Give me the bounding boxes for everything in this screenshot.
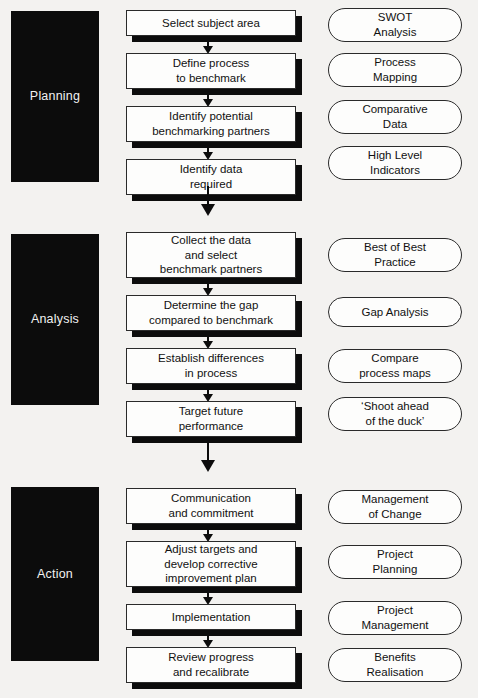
process-text-line: develop corrective — [164, 557, 257, 572]
box-face: Review progress and recalibrate — [126, 647, 296, 683]
process-text-line: Collect the data — [160, 233, 262, 248]
process-text-line: Implementation — [172, 610, 251, 625]
tool-text-line: Planning — [373, 562, 418, 577]
tool-pill-analysis-2[interactable]: Gap Analysis — [328, 297, 462, 327]
process-text: Determine the gap compared to benchmark — [143, 298, 279, 327]
tool-text: ‘Shoot ahead of the duck’ — [353, 399, 437, 428]
process-text-line: and select — [160, 248, 262, 263]
tool-text: SWOT Analysis — [366, 10, 425, 39]
process-box-analysis-1[interactable]: Collect the data and select benchmark pa… — [126, 232, 296, 278]
process-text-line: Establish differences — [158, 351, 264, 366]
phase-panel-planning: Planning — [12, 12, 98, 181]
phase-panel-action: Action — [12, 488, 98, 660]
tool-text: Comparative Data — [354, 102, 435, 131]
process-box-planning-3[interactable]: Identify potential benchmarking partners — [126, 106, 296, 142]
tool-text-line: Comparative — [362, 102, 427, 117]
arrowhead-icon — [201, 204, 215, 216]
tool-text-line: Compare — [359, 351, 431, 366]
process-text-line: Identify data — [180, 162, 243, 177]
process-box-action-3[interactable]: Implementation — [126, 604, 296, 630]
tool-text-line: of Change — [361, 507, 428, 522]
tool-text-line: Realisation — [367, 665, 424, 680]
tool-pill-action-1[interactable]: Management of Change — [328, 490, 462, 524]
process-text: Target future performance — [173, 404, 250, 433]
tool-pill-analysis-1[interactable]: Best of Best Practice — [328, 238, 462, 272]
process-text-line: compared to benchmark — [149, 313, 273, 328]
tool-text-line: Indicators — [368, 163, 422, 178]
phase-label-planning: Planning — [30, 89, 80, 104]
tool-pill-analysis-4[interactable]: ‘Shoot ahead of the duck’ — [328, 397, 462, 431]
tool-pill-planning-3[interactable]: Comparative Data — [328, 100, 462, 134]
process-text: Identify data required — [174, 162, 249, 191]
process-box-action-1[interactable]: Communication and commitment — [126, 488, 296, 524]
tool-pill-action-4[interactable]: Benefits Realisation — [328, 648, 462, 682]
box-face: Implementation — [126, 604, 296, 630]
tool-text: Benefits Realisation — [359, 650, 432, 679]
tool-text-line: Project — [361, 603, 428, 618]
tool-text: Compare process maps — [351, 351, 439, 380]
tool-text-line: Gap Analysis — [361, 305, 428, 320]
tool-text-line: High Level — [368, 148, 422, 163]
tool-pill-planning-4[interactable]: High Level Indicators — [328, 146, 462, 180]
tool-text-line: Management — [361, 492, 428, 507]
box-face: Determine the gap compared to benchmark — [126, 295, 296, 331]
process-text: Adjust targets and develop corrective im… — [158, 542, 263, 586]
tool-text: Project Planning — [365, 547, 426, 576]
process-text-line: Determine the gap — [149, 298, 273, 313]
box-face: Target future performance — [126, 401, 296, 437]
tool-text-line: Management — [361, 618, 428, 633]
process-text: Define process to benchmark — [167, 56, 256, 85]
tool-pill-planning-2[interactable]: Process Mapping — [328, 53, 462, 87]
flowchart-canvas: Planning Select subject area Define proc… — [0, 0, 478, 698]
process-text: Communication and commitment — [162, 491, 259, 520]
tool-pill-action-3[interactable]: Project Management — [328, 601, 462, 635]
process-text-line: Adjust targets and — [164, 542, 257, 557]
process-text: Review progress and recalibrate — [162, 650, 260, 679]
process-box-analysis-4[interactable]: Target future performance — [126, 401, 296, 437]
tool-pill-analysis-3[interactable]: Compare process maps — [328, 349, 462, 383]
process-text: Collect the data and select benchmark pa… — [154, 233, 268, 277]
tool-text-line: Best of Best — [364, 240, 426, 255]
box-face: Establish differences in process — [126, 348, 296, 384]
process-box-action-2[interactable]: Adjust targets and develop corrective im… — [126, 541, 296, 587]
process-box-action-4[interactable]: Review progress and recalibrate — [126, 647, 296, 683]
box-face: Select subject area — [126, 10, 296, 36]
tool-text: Management of Change — [353, 492, 436, 521]
process-text-line: Review progress — [168, 650, 254, 665]
tool-text: Gap Analysis — [353, 305, 436, 320]
phase-label-analysis: Analysis — [31, 312, 79, 327]
process-text-line: Communication — [168, 491, 253, 506]
process-text-line: and commitment — [168, 506, 253, 521]
process-box-planning-4[interactable]: Identify data required — [126, 159, 296, 195]
arrowhead-icon — [201, 460, 215, 472]
process-box-analysis-3[interactable]: Establish differences in process — [126, 348, 296, 384]
process-box-planning-1[interactable]: Select subject area — [126, 10, 296, 36]
tool-pill-planning-1[interactable]: SWOT Analysis — [328, 8, 462, 42]
process-text-line: benchmarking partners — [152, 124, 270, 139]
tool-text-line: Practice — [364, 255, 426, 270]
tool-text-line: Data — [362, 117, 427, 132]
tool-text-line: process maps — [359, 366, 431, 381]
process-text: Select subject area — [156, 16, 266, 31]
process-text: Establish differences in process — [152, 351, 270, 380]
process-text-line: Define process — [173, 56, 250, 71]
phase-label-action: Action — [37, 567, 73, 582]
tool-text-line: Mapping — [373, 70, 417, 85]
box-face: Identify data required — [126, 159, 296, 195]
box-face: Communication and commitment — [126, 488, 296, 524]
process-box-planning-2[interactable]: Define process to benchmark — [126, 53, 296, 89]
box-face: Identify potential benchmarking partners — [126, 106, 296, 142]
process-box-analysis-2[interactable]: Determine the gap compared to benchmark — [126, 295, 296, 331]
process-text-line: Identify potential — [152, 109, 270, 124]
process-text: Implementation — [166, 610, 257, 625]
tool-text-line: Project — [373, 547, 418, 562]
tool-text-line: of the duck’ — [361, 414, 429, 429]
tool-text-line: ‘Shoot ahead — [361, 399, 429, 414]
process-text-line: improvement plan — [164, 571, 257, 586]
tool-text-line: Benefits — [367, 650, 424, 665]
process-text-line: required — [180, 177, 243, 192]
tool-text-line: SWOT — [374, 10, 417, 25]
box-face: Define process to benchmark — [126, 53, 296, 89]
tool-pill-action-2[interactable]: Project Planning — [328, 545, 462, 579]
process-text-line: Target future — [179, 404, 244, 419]
